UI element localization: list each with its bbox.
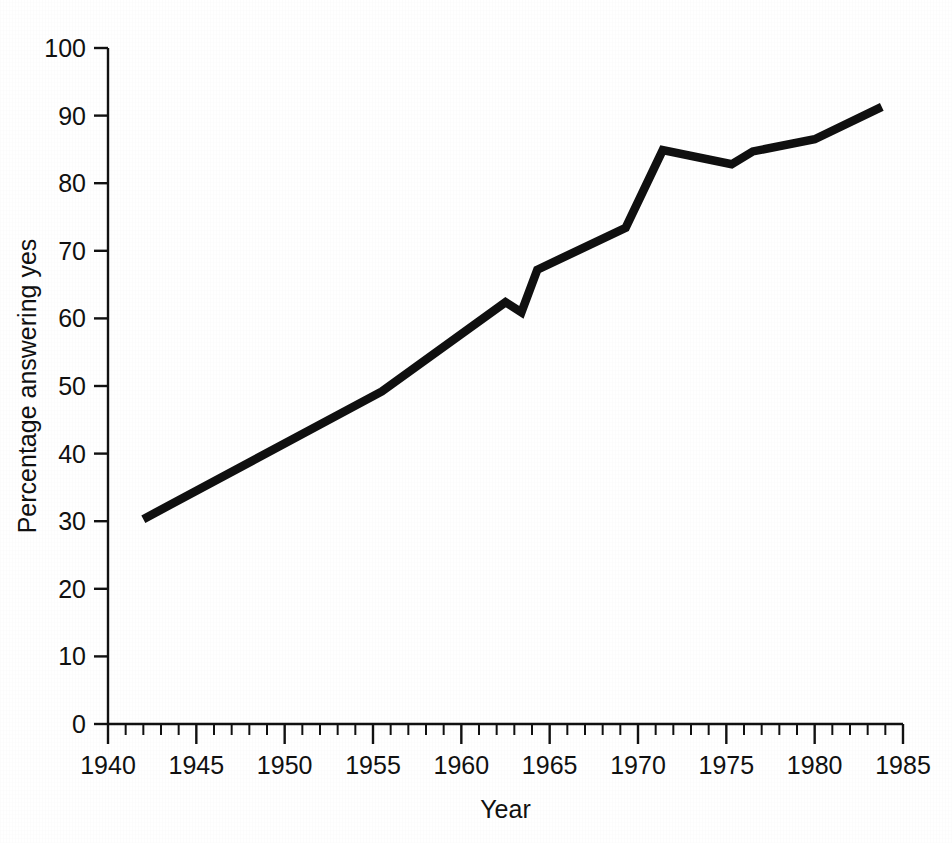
y-tick-label: 10 (58, 642, 86, 670)
x-tick-label: 1960 (434, 751, 490, 779)
x-tick-label: 1950 (257, 751, 313, 779)
y-tick-label: 100 (44, 34, 86, 62)
x-axis-title: Year (480, 795, 531, 823)
y-tick-label: 90 (58, 102, 86, 130)
x-tick-label: 1975 (699, 751, 755, 779)
y-tick-label: 40 (58, 440, 86, 468)
x-tick-label: 1945 (169, 751, 225, 779)
y-tick-label: 80 (58, 169, 86, 197)
truncated-caption (30, 0, 930, 6)
axis-titles: YearPercentage answering yes (13, 239, 531, 823)
y-tick-label: 70 (58, 237, 86, 265)
x-tick-label: 1955 (345, 751, 401, 779)
y-tick-label: 50 (58, 372, 86, 400)
data-line-percentage-answering-yes (143, 107, 881, 519)
x-axis: 1940194519501955196019651970197519801985 (80, 724, 931, 779)
y-tick-label: 0 (72, 710, 86, 738)
y-tick-label: 20 (58, 575, 86, 603)
y-tick-label: 60 (58, 304, 86, 332)
y-tick-label: 30 (58, 507, 86, 535)
data-series-group (143, 107, 881, 519)
chart-figure: 0102030405060708090100 19401945195019551… (0, 0, 952, 843)
x-tick-label: 1985 (875, 751, 931, 779)
x-tick-label: 1970 (610, 751, 666, 779)
y-axis-title: Percentage answering yes (13, 239, 41, 534)
x-tick-label: 1980 (787, 751, 843, 779)
line-chart: 0102030405060708090100 19401945195019551… (0, 0, 952, 843)
x-tick-label: 1965 (522, 751, 578, 779)
x-tick-label: 1940 (80, 751, 136, 779)
y-axis: 0102030405060708090100 (44, 34, 108, 738)
